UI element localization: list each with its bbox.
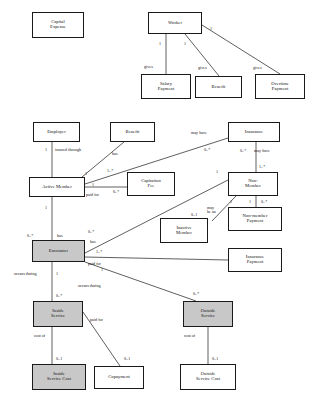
edge-label-m-inside-0n: 0..* — [56, 294, 62, 298]
edge-label-r-paid-for-encounter: paid for — [88, 262, 101, 266]
class-box-insurance[interactable]: Insurance — [228, 122, 280, 142]
class-box-inside_service[interactable]: Inside Service — [33, 301, 83, 327]
edge-label-r-paid-for-capfee: paid for — [86, 193, 99, 197]
edge-label-m-outsidecost-01: 0..1 — [212, 357, 218, 361]
class-box-label: Insurance Payment — [246, 255, 264, 265]
edge-label-m-enc-has-0n: 0..* — [27, 234, 33, 238]
class-box-label: Capitation Fee — [141, 179, 161, 189]
edge-label-m-copay-01: 0..1 — [124, 357, 130, 361]
class-box-label: Inside Service Cost — [47, 372, 71, 382]
class-box-label: Overtime Payment — [271, 82, 289, 92]
edge-label-r-occurs-during-left: occurs during — [14, 272, 37, 276]
class-box-non_member_payment[interactable]: Non-member Payment — [228, 207, 282, 231]
edge-label-m-enc-inside-1: 1 — [56, 272, 58, 276]
edge-label-m-enc-paidfor-1: 1 — [101, 268, 103, 272]
edge-label-m-nonmember-inactive-1: 1 — [230, 200, 232, 204]
class-box-employer[interactable]: Employer — [33, 122, 80, 142]
class-box-inside_service_cost[interactable]: Inside Service Cost — [32, 364, 86, 390]
edge-label-r-cost-of-outside: cost of — [184, 334, 195, 338]
class-box-outside_service[interactable]: Outside Service — [183, 301, 233, 327]
class-box-outside_service_cost[interactable]: Outside Service Cost — [180, 364, 236, 390]
edge-label-r-cost-of-inside: cost of — [34, 334, 45, 338]
diagram-edges — [0, 0, 315, 401]
edge-label-m-active-capfee-1: 1 — [92, 183, 94, 187]
edge-label-m-ins-nonmember-1n: 1..* — [259, 165, 265, 169]
class-box-label: Inactive Member — [176, 226, 192, 236]
class-box-insurance_payment[interactable]: Insurance Payment — [228, 248, 282, 272]
edge-label-r-may-have-ins: may have — [191, 131, 207, 135]
edge-label-m-inactive-01: 0..1 — [191, 213, 197, 217]
edge-label-m-active-benefit-1: 1 — [85, 172, 87, 176]
edge-label-m-worker-overtime-1: 1 — [210, 27, 212, 31]
edge-label-m-ins-nonmember-0n: 0..* — [240, 149, 246, 153]
edge-benefit-active — [82, 142, 124, 177]
class-box-inactive_member[interactable]: Inactive Member — [160, 218, 208, 243]
class-box-worker[interactable]: Worker — [148, 12, 202, 34]
class-box-label: Copayment — [108, 375, 130, 380]
edge-label-m-outside-0n: 0..* — [193, 292, 199, 296]
edge-label-m-nmp-0n: 0..* — [261, 200, 267, 204]
edge-label-r-gives-benefit: gives — [198, 66, 207, 70]
class-box-salary_payment[interactable]: Salary Payment — [141, 74, 191, 99]
edge-label-r-has-benefit-mid: has — [112, 152, 118, 156]
class-box-encounter[interactable]: Encounter — [32, 240, 85, 262]
edge-label-r-paid-for-copay: paid for — [90, 318, 103, 322]
edge-label-m-capfee-0n: 0..* — [113, 190, 119, 194]
class-diagram-canvas: Capital ExpenseWorkerSalary PaymentBenef… — [0, 0, 315, 401]
class-box-active_member[interactable]: Active Member — [29, 177, 85, 197]
edge-label-r-occurs-during-right: occurs during — [78, 284, 101, 288]
edge-label-m-worker-benefit-1: 1 — [184, 42, 186, 46]
class-box-label: Capital Expense — [50, 20, 66, 30]
edge-label-m-worker-salary-1: 1 — [159, 42, 161, 46]
class-box-overtime_payment[interactable]: Overtime Payment — [255, 74, 305, 99]
class-box-label: Outside Service — [201, 309, 216, 319]
class-box-benefit_top[interactable]: Benefit — [195, 76, 242, 98]
edge-label-m-enc-inspay-1n: 1..* — [96, 250, 102, 254]
edge-label-r-has-encounter: has — [57, 234, 63, 238]
edge-label-m-enc-nonmember-0n: 0..* — [88, 230, 94, 234]
class-box-label: Benefit — [126, 130, 140, 135]
edge-worker-overtime — [202, 25, 280, 74]
class-box-label: Non- Member — [245, 179, 261, 189]
edge-label-m-nonmember-enc-1: 1 — [216, 170, 218, 174]
edge-label-m-may-have-ins-0n: 0..* — [204, 148, 210, 152]
edge-label-r-gives-overtime: gives — [253, 66, 262, 70]
edge-label-r-may-be-an: may be an — [207, 206, 216, 215]
edge-encounter-inspayment — [85, 257, 228, 260]
edge-label-r-has-nonmember: has — [90, 240, 96, 244]
edge-label-m-nonmember-nmp-1: 1 — [249, 200, 251, 204]
class-box-label: Worker — [168, 21, 182, 26]
class-box-label: Encounter — [49, 249, 68, 254]
edge-label-m-insidecost-01: 0..1 — [56, 357, 62, 361]
class-box-label: Active Member — [42, 185, 72, 190]
class-box-non_member[interactable]: Non- Member — [228, 172, 278, 196]
edge-label-m-employer-1: 1 — [45, 148, 47, 152]
class-box-copayment[interactable]: Copayment — [94, 366, 144, 389]
class-box-label: Non-member Payment — [243, 214, 268, 224]
class-box-capitation_fee[interactable]: Capitation Fee — [127, 172, 175, 196]
class-box-label: Employer — [47, 130, 66, 135]
class-box-label: Insurance — [245, 130, 263, 135]
class-box-label: Inside Service — [51, 309, 65, 319]
edge-label-m-active-ins-1n: 1..* — [107, 169, 113, 173]
edge-label-m-active-enc-1: 1 — [45, 206, 47, 210]
edge-label-r-gives-salary: gives — [144, 65, 153, 69]
class-box-label: Outside Service Cost — [196, 372, 220, 382]
class-box-capital_expense[interactable]: Capital Expense — [32, 12, 84, 38]
class-box-label: Benefit — [212, 85, 226, 90]
class-box-label: Salary Payment — [158, 82, 174, 92]
class-box-benefit_mid[interactable]: Benefit — [110, 122, 155, 142]
edge-label-r-may-have-nonmember: may have — [254, 149, 270, 153]
edge-label-r-insured-through: insured through — [55, 148, 81, 152]
